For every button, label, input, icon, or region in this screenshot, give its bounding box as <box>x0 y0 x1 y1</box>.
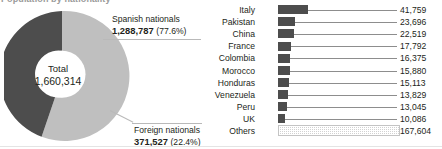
bar-row-bar[interactable] <box>278 78 289 87</box>
bar-row-label: Morocco <box>222 66 255 76</box>
bar-row-leader-line <box>288 95 397 96</box>
leader-line-foreign <box>132 123 202 124</box>
bar-row[interactable]: Peru13,045 <box>200 101 442 113</box>
bar-row-bar[interactable] <box>278 17 295 26</box>
bar-row-bar[interactable] <box>278 42 291 51</box>
bar-row[interactable]: China22,519 <box>200 28 442 40</box>
bar-chart-panel: Italy41,759Pakistan23,696China22,519Fran… <box>200 4 442 149</box>
bar-row-value: 15,880 <box>400 66 426 76</box>
bar-row-value: 15,113 <box>400 78 426 88</box>
bar-row-leader-line <box>287 107 397 108</box>
bar-row-label: Colombia <box>219 53 255 63</box>
donut-callout-spanish-number: 1,288,787 <box>112 25 154 36</box>
bar-row-bar[interactable] <box>278 5 308 14</box>
donut-hole <box>39 51 86 98</box>
donut-callout-spanish: Spanish nationals 1,288,787 (77.6%) <box>112 14 186 36</box>
bar-row-leader-line <box>308 10 397 11</box>
bar-row-value: 41,759 <box>400 5 426 15</box>
bar-row-bar[interactable] <box>278 90 288 99</box>
donut-callout-spanish-value: 1,288,787 (77.6%) <box>112 25 186 37</box>
bar-row[interactable]: Honduras15,113 <box>200 77 442 89</box>
bar-row-label: Peru <box>237 102 255 112</box>
bar-row-leader-line <box>290 58 397 59</box>
bar-row[interactable]: Morocco15,880 <box>200 65 442 77</box>
bar-row-value: 23,696 <box>400 17 426 27</box>
bar-row-label: France <box>228 41 255 51</box>
bar-row-value: 17,792 <box>400 41 426 51</box>
bar-row[interactable]: UK10,086 <box>200 113 442 125</box>
bar-row-leader-line <box>290 71 397 72</box>
bar-row-bar[interactable] <box>278 125 400 136</box>
bar-row-value: 167,604 <box>400 126 431 136</box>
bar-row-value: 13,829 <box>400 90 426 100</box>
bar-row-leader-line <box>291 46 397 47</box>
bar-row-bar[interactable] <box>278 66 290 75</box>
bar-row-label: Italy <box>239 5 255 15</box>
donut-callout-spanish-percent: (77.6%) <box>156 26 186 36</box>
bar-row-value: 13,045 <box>400 102 426 112</box>
bar-row-label: China <box>233 29 255 39</box>
bar-row-label: UK <box>243 114 255 124</box>
bar-row-leader-line <box>289 83 397 84</box>
bar-row-value: 16,375 <box>400 53 426 63</box>
bar-row-label: Venezuela <box>215 90 255 100</box>
leader-line-spanish <box>103 39 201 40</box>
bar-row[interactable]: Colombia16,375 <box>200 52 442 64</box>
bar-row[interactable]: Pakistan23,696 <box>200 16 442 28</box>
bar-row[interactable]: Italy41,759 <box>200 4 442 16</box>
donut-callout-foreign: Foreign nationals 371,527 (22.4%) <box>134 125 201 147</box>
donut-chart-panel: Total 1,660,314 Spanish nationals 1,288,… <box>0 3 200 149</box>
bar-row[interactable]: Venezuela13,829 <box>200 89 442 101</box>
bar-row-bar[interactable] <box>278 102 287 111</box>
bar-row-leader-line <box>295 22 397 23</box>
bar-row-label: Honduras <box>218 78 255 88</box>
bar-row-value: 10,086 <box>400 114 426 124</box>
bar-row-leader-line <box>294 34 397 35</box>
bar-row[interactable]: France17,792 <box>200 40 442 52</box>
bar-row-bar[interactable] <box>278 29 294 38</box>
bar-row-bar[interactable] <box>278 114 285 123</box>
bar-row-label: Pakistan <box>222 17 255 27</box>
bottom-divider <box>0 146 442 147</box>
bar-row-label: Others <box>229 126 255 136</box>
bar-row-bar[interactable] <box>278 54 290 63</box>
bar-row-leader-line <box>285 119 397 120</box>
bar-row[interactable]: Others167,604 <box>200 125 442 137</box>
donut-callout-spanish-name: Spanish nationals <box>112 14 186 25</box>
donut-callout-foreign-name: Foreign nationals <box>134 125 201 136</box>
bar-row-value: 22,519 <box>400 29 426 39</box>
